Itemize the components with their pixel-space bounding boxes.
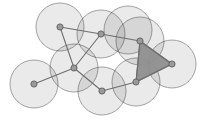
- disk-cover-layer: [10, 3, 196, 115]
- disk-complex-svg: [0, 0, 206, 126]
- graph-vertex: [169, 61, 175, 67]
- graph-vertex: [133, 79, 139, 85]
- graph-vertex: [98, 31, 104, 37]
- graph-vertex: [57, 24, 63, 30]
- graph-vertex: [31, 81, 37, 87]
- graph-vertex: [71, 65, 77, 71]
- graph-vertex: [137, 38, 143, 44]
- graph-vertex: [99, 88, 105, 94]
- figure-canvas: [0, 0, 206, 126]
